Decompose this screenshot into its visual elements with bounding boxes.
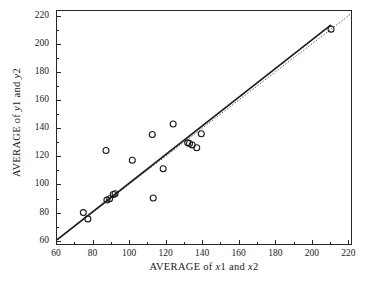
trend-lines-group [57,14,351,240]
x-tick-minor [147,242,148,245]
x-tick-minor [184,242,185,245]
data-point [129,157,135,163]
x-tick-minor [294,242,295,245]
x-axis-title: AVERAGE of x1 and x2 [56,261,352,272]
x-tick-minor [111,242,112,245]
plot-area [56,10,352,245]
y-tick-minor [56,58,59,59]
y-tick-major [56,156,61,157]
y-tick-major [56,16,61,17]
x-tick-major [93,240,94,245]
y-tick-major [56,241,61,242]
x-tick-major [312,240,313,245]
x-tick-major [348,240,349,245]
data-point [150,195,156,201]
plot-canvas [57,11,351,244]
data-point [160,166,166,172]
x-tick-major [239,240,240,245]
x-tick-major [275,240,276,245]
y-tick-label: 80 [21,207,49,218]
y-axis-title-sub2: 2 [11,68,22,74]
y-axis-title-var1: y [11,106,22,111]
y-tick-label: 160 [21,94,49,105]
x-tick-label: 140 [187,248,217,259]
y-tick-label: 200 [21,38,49,49]
data-point [80,210,86,216]
y-tick-major [56,44,61,45]
scatter-plot-figure: 6080100120140160180200220 60801001201401… [0,0,376,283]
y-axis-title-mid: and [11,78,22,100]
y-tick-label: 140 [21,122,49,133]
y-tick-minor [56,30,59,31]
y-axis-title-sub1: 1 [11,100,22,106]
x-tick-major [166,240,167,245]
y-axis-title-prefix: AVERAGE of [11,111,22,177]
y-tick-label: 60 [21,235,49,246]
y-tick-minor [56,227,59,228]
data-point [198,131,204,137]
x-tick-minor [220,242,221,245]
x-tick-label: 180 [260,248,290,259]
x-tick-label: 100 [114,248,144,259]
y-tick-major [56,72,61,73]
y-tick-minor [56,170,59,171]
data-point [170,121,176,127]
x-axis-tick-labels: 6080100120140160180200220 [0,248,376,262]
y-tick-major [56,128,61,129]
x-tick-minor [257,242,258,245]
y-axis-title-var2: y [11,74,22,79]
x-tick-label: 120 [151,248,181,259]
y-tick-label: 180 [21,66,49,77]
y-tick-minor [56,142,59,143]
data-point [85,216,91,222]
y-axis-tick-labels: 6080100120140160180200220 [0,0,54,283]
x-tick-minor [330,242,331,245]
x-axis-title-prefix: AVERAGE of [149,261,215,272]
x-tick-label: 200 [297,248,327,259]
x-axis-title-mid: and [226,261,248,272]
y-tick-major [56,100,61,101]
y-tick-label: 120 [21,150,49,161]
x-tick-label: 220 [333,248,363,259]
y-tick-label: 220 [21,10,49,21]
y-tick-minor [56,199,59,200]
y-tick-label: 100 [21,178,49,189]
x-tick-minor [74,242,75,245]
y-tick-minor [56,114,59,115]
y-tick-major [56,184,61,185]
x-tick-major [129,240,130,245]
x-tick-label: 160 [224,248,254,259]
data-point [149,132,155,138]
x-axis-title-sub2: 2 [253,261,259,272]
y-tick-minor [56,86,59,87]
y-tick-major [56,213,61,214]
x-tick-label: 80 [78,248,108,259]
x-tick-major [202,240,203,245]
y-axis-title: AVERAGE of y1 and y2 [11,3,22,243]
data-point [103,148,109,154]
regression-line [57,25,331,240]
